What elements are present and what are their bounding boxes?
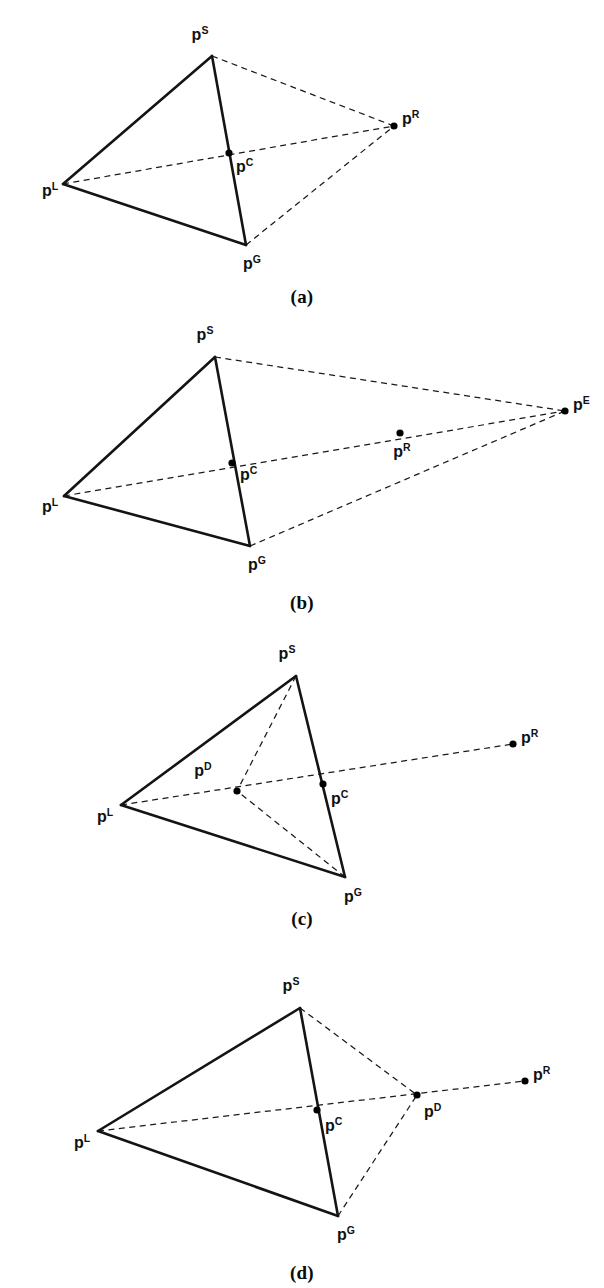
panel-a-edge-left-ground xyxy=(63,184,246,245)
panel-a-p-C-dot xyxy=(225,149,232,156)
panel-c-p-G-label: pG xyxy=(344,886,362,905)
panel-c-ray-apex-to-d xyxy=(237,676,296,791)
panel-d-p-C-dot xyxy=(313,1106,320,1113)
panel-d-p-R-superscript: R xyxy=(543,1064,551,1076)
panel-b-diagram: pSpLpGpEpRpC xyxy=(0,314,604,596)
panel-b-ray-ground-to-e xyxy=(250,411,565,546)
panel-a: pSpLpGpRpC xyxy=(0,0,604,282)
panel-a-p-R-dot xyxy=(390,122,397,129)
panel-b-p-E-label: pE xyxy=(573,394,590,413)
panel-b-caption: (b) xyxy=(0,592,604,614)
panel-c-ray-ground-to-d xyxy=(237,791,345,877)
panel-a-p-G-superscript: G xyxy=(253,253,261,265)
panel-b-p-E-dot xyxy=(561,407,568,414)
panel-c-p-L-label: pL xyxy=(97,806,114,825)
panel-d-p-R-label: pR xyxy=(533,1064,551,1083)
panel-d: pSpLpGpRpCpD xyxy=(0,962,604,1256)
panel-c-p-R-superscript: R xyxy=(531,727,539,739)
panel-a-p-L-superscript: L xyxy=(52,180,59,192)
panel-c-p-C-dot xyxy=(319,780,326,787)
panel-d-edge-left-ground xyxy=(98,1131,338,1216)
panel-b-p-R-dot xyxy=(396,429,403,436)
panel-b-p-R-superscript: R xyxy=(403,441,411,453)
panel-b-p-G-superscript: G xyxy=(258,554,266,566)
panel-b-p-C-superscript: C xyxy=(250,464,258,476)
panel-b-p-S-superscript: S xyxy=(206,324,213,336)
panel-b-p-G-label: pG xyxy=(248,554,266,573)
panel-c-p-C-label: pC xyxy=(331,788,349,807)
panel-a-ray-ground-to-r xyxy=(246,126,394,245)
panel-d-ray-ground-to-d xyxy=(338,1095,417,1216)
panel-d-p-S-superscript: S xyxy=(292,975,299,987)
panel-c-p-S-superscript: S xyxy=(288,643,295,655)
panel-b-edge-apex-ground xyxy=(215,357,250,546)
panel-d-p-C-label: pC xyxy=(325,1115,343,1134)
panel-d-caption: (d) xyxy=(0,1262,604,1284)
panel-a-p-R-label: pR xyxy=(402,108,420,127)
panel-d-p-C-superscript: C xyxy=(335,1115,343,1127)
panel-c-diagram: pSpLpGpRpCpD xyxy=(0,632,604,910)
panel-b-p-C-dot xyxy=(228,459,235,466)
panel-a-caption: (a) xyxy=(0,286,604,308)
panel-d-p-D-label: pD xyxy=(424,1101,442,1120)
panel-d-p-G-label: pG xyxy=(337,1224,355,1243)
panel-b-edge-left-ground xyxy=(64,496,250,546)
panel-a-p-C-superscript: C xyxy=(246,156,254,168)
panel-d-p-R-dot xyxy=(521,1077,528,1084)
panel-d-p-S-label: pS xyxy=(283,975,300,994)
panel-c: pSpLpGpRpCpD xyxy=(0,632,604,910)
panel-d-p-D-dot xyxy=(413,1091,420,1098)
panel-c-edge-left-ground xyxy=(121,805,345,877)
panel-d-p-L-label: pL xyxy=(74,1132,91,1151)
panel-c-p-C-superscript: C xyxy=(341,788,349,800)
panel-d-p-G-superscript: G xyxy=(347,1224,355,1236)
panel-d-p-D-superscript: D xyxy=(434,1101,442,1113)
panel-c-p-G-superscript: G xyxy=(354,886,362,898)
panel-b-p-S-label: pS xyxy=(197,324,214,343)
panel-b-p-E-superscript: E xyxy=(583,394,590,406)
panel-a-p-L-label: pL xyxy=(42,180,59,199)
panel-a-p-S-label: pS xyxy=(192,24,209,43)
panel-c-p-D-dot xyxy=(233,787,240,794)
panel-d-diagram: pSpLpGpRpCpD xyxy=(0,962,604,1256)
panel-a-p-C-label: pC xyxy=(236,156,254,175)
panel-c-p-S-label: pS xyxy=(279,643,296,662)
panel-d-edge-left-apex xyxy=(98,1008,300,1131)
panel-a-p-R-superscript: R xyxy=(412,108,420,120)
panel-b-p-L-label: pL xyxy=(42,496,59,515)
panel-b-p-L-superscript: L xyxy=(52,496,59,508)
panel-c-p-D-label: pD xyxy=(194,760,212,779)
panel-b: pSpLpGpEpRpC xyxy=(0,314,604,596)
panel-a-edge-left-apex xyxy=(63,56,212,184)
panel-b-p-R-label: pR xyxy=(393,441,411,460)
panel-c-p-D-superscript: D xyxy=(204,760,212,772)
panel-c-p-R-label: pR xyxy=(521,727,539,746)
figure-root: pSpLpGpRpC(a)pSpLpGpEpRpC(b)pSpLpGpRpCpD… xyxy=(0,0,604,1288)
panel-c-p-R-dot xyxy=(509,740,516,747)
panel-c-edge-left-apex xyxy=(121,676,296,805)
panel-c-p-L-superscript: L xyxy=(107,806,114,818)
panel-b-p-C-label: pC xyxy=(240,464,258,483)
panel-a-diagram: pSpLpGpRpC xyxy=(0,0,604,282)
panel-c-caption: (c) xyxy=(0,908,604,930)
panel-d-ray-apex-to-d xyxy=(300,1008,417,1095)
panel-b-ray-apex-to-e xyxy=(215,357,565,411)
panel-b-ray-left-to-e xyxy=(64,411,565,496)
panel-d-ray-left-to-r xyxy=(98,1081,525,1131)
panel-a-p-S-superscript: S xyxy=(201,24,208,36)
panel-b-edge-left-apex xyxy=(64,357,215,496)
panel-a-ray-apex-to-r xyxy=(212,56,394,126)
panel-a-p-G-label: pG xyxy=(243,253,261,272)
panel-c-edge-apex-ground xyxy=(296,676,345,877)
panel-c-ray-left-to-r xyxy=(121,744,513,805)
panel-d-p-L-superscript: L xyxy=(84,1132,91,1144)
